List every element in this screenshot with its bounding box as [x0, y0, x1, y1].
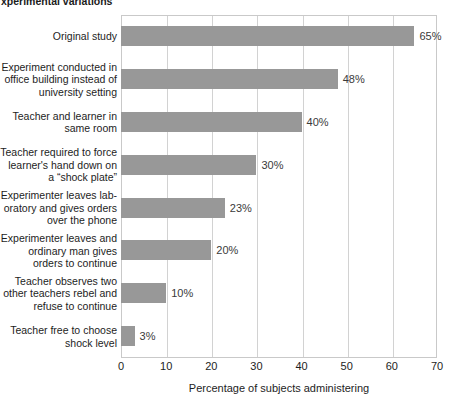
bar	[121, 198, 225, 218]
bar-row: 3%	[121, 315, 437, 358]
top-caption: xperimental variations	[0, 0, 449, 9]
x-tick-label: 70	[431, 360, 443, 372]
bar-value-label: 3%	[135, 326, 156, 346]
x-axis-ticks: 010203040506070	[121, 360, 437, 376]
x-tick-label: 30	[250, 360, 262, 372]
bar-chart: xperimental variations 65%48%40%30%23%20…	[0, 0, 449, 403]
bar-value-label: 10%	[166, 283, 193, 303]
bar	[121, 26, 414, 46]
bar-row: 65%	[121, 15, 437, 58]
category-label: Teacher required to force learner's hand…	[0, 146, 117, 183]
bar	[121, 155, 256, 175]
x-tick-label: 50	[341, 360, 353, 372]
bar-value-label: 65%	[414, 26, 441, 46]
category-label: Experimenter leaves lab- oratory and giv…	[0, 189, 117, 226]
bar-row: 30%	[121, 144, 437, 187]
bar-value-label: 23%	[225, 198, 252, 218]
x-axis-title: Percentage of subjects administering	[121, 382, 437, 394]
bar-value-label: 48%	[338, 69, 365, 89]
bar	[121, 326, 135, 346]
category-label: Experimenter leaves and ordinary man giv…	[0, 232, 117, 269]
bar	[121, 240, 211, 260]
bars-layer: 65%48%40%30%23%20%10%3%	[121, 15, 437, 358]
x-tick-label: 0	[118, 360, 124, 372]
bar-row: 40%	[121, 101, 437, 144]
bar-value-label: 20%	[211, 240, 238, 260]
bar-row: 23%	[121, 187, 437, 230]
bar-value-label: 30%	[256, 155, 283, 175]
bar	[121, 283, 166, 303]
category-label: Teacher observes two other teachers rebe…	[0, 275, 117, 312]
category-axis-labels: Original studyExperiment conducted in of…	[0, 15, 117, 358]
category-label: Original study	[0, 30, 117, 42]
x-tick-label: 40	[295, 360, 307, 372]
bar-row: 10%	[121, 272, 437, 315]
top-caption-left: xperimental variations	[1, 0, 112, 7]
category-label: Teacher and learner in same room	[0, 110, 117, 135]
x-tick-label: 10	[160, 360, 172, 372]
x-tick-label: 20	[205, 360, 217, 372]
category-label: Experiment conducted in office building …	[0, 61, 117, 98]
bar-row: 20%	[121, 229, 437, 272]
bar-row: 48%	[121, 58, 437, 101]
bar	[121, 112, 302, 132]
bar	[121, 69, 338, 89]
bar-value-label: 40%	[302, 112, 329, 132]
category-label: Teacher free to choose shock level	[0, 324, 117, 349]
x-tick-label: 60	[386, 360, 398, 372]
